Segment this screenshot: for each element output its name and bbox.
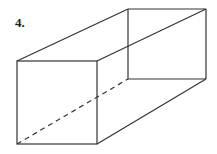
- top-left-edge: [17, 9, 128, 61]
- rectangular-prism-figure: [0, 0, 217, 154]
- bottom-right-edge: [97, 79, 206, 144]
- top-right-edge: [97, 9, 206, 61]
- hidden-bottom-left-edge: [17, 79, 128, 144]
- front-face: [17, 61, 97, 144]
